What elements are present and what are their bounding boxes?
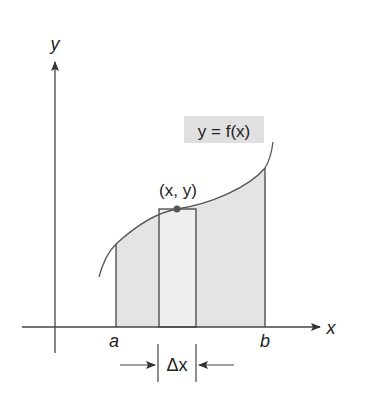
- point-marker: [174, 206, 181, 213]
- x-axis-label: x: [326, 318, 337, 338]
- bound-b-label: b: [260, 331, 270, 351]
- delta-x-label: Δx: [166, 355, 187, 375]
- bound-a-label: a: [109, 331, 119, 351]
- curve-label: y = f(x): [198, 122, 250, 141]
- representative-rectangle: [159, 209, 196, 327]
- area-under-curve-diagram: y = f(x) (x, y) y x a b Δx: [0, 0, 365, 400]
- point-label: (x, y): [159, 181, 197, 200]
- y-axis-label: y: [49, 34, 61, 54]
